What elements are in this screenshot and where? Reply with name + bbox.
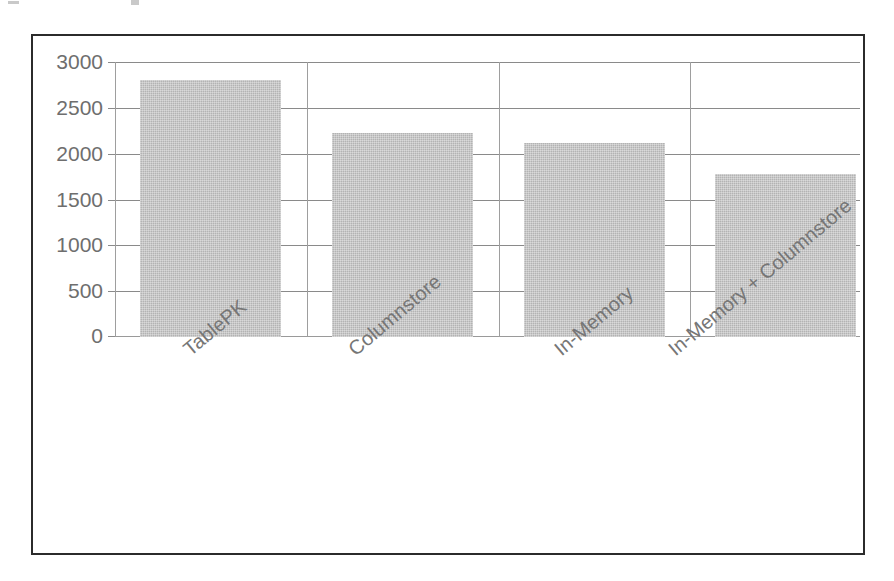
ytick-label-3000: 3000: [56, 50, 103, 74]
ytick-mark-2000: [108, 154, 115, 155]
ytick-mark-500: [108, 291, 115, 292]
artifact-mark: [131, 0, 139, 5]
category-divider-0: [115, 62, 116, 337]
artifact-mark: [8, 1, 19, 4]
chart-frame: 3000 2500 2000 1500 1000 500 0 TablePK C…: [31, 34, 865, 555]
bar-tablepk: [140, 80, 281, 337]
ytick-mark-3000: [108, 62, 115, 63]
ytick-label-2000: 2000: [56, 142, 103, 166]
category-divider-1: [307, 62, 308, 337]
category-divider-3: [690, 62, 691, 337]
scan-artifact: [0, 0, 894, 8]
ytick-label-500: 500: [68, 279, 103, 303]
ytick-label-2500: 2500: [56, 96, 103, 120]
ytick-mark-1500: [108, 200, 115, 201]
ytick-label-0: 0: [91, 324, 103, 348]
ytick-label-1500: 1500: [56, 188, 103, 212]
ytick-mark-1000: [108, 245, 115, 246]
ytick-mark-0: [108, 336, 115, 337]
category-divider-2: [499, 62, 500, 337]
gridline-3000: [115, 62, 860, 63]
x-axis-tick-labels: TablePK Columnstore In-Memory In-Memory …: [115, 341, 860, 551]
ytick-label-1000: 1000: [56, 233, 103, 257]
ytick-mark-2500: [108, 108, 115, 109]
